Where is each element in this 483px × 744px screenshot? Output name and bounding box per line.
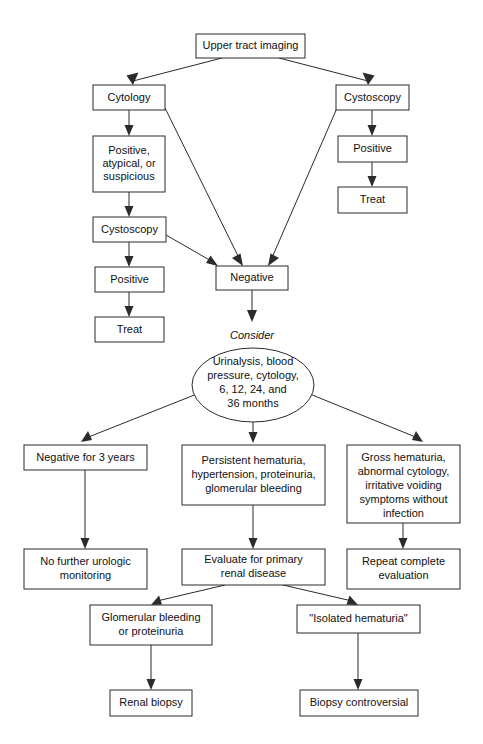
edge-followup-to-gross-hematuria (300, 390, 418, 438)
edge-cystoscopy-left-to-negative (166, 235, 213, 262)
node-no-further-monitoring[interactable]: No further urologic monitoring (24, 549, 147, 589)
node-cystoscopy-left[interactable]: Cystoscopy (93, 217, 166, 242)
arrowhead-isolated-to-biopsy-controversial (354, 679, 363, 690)
arrowhead-followup-to-gross-hematuria (412, 431, 423, 442)
arrowhead-positive-atypical-to-cystoscopy-left (125, 206, 134, 217)
node-treat-right[interactable]: Treat (338, 187, 407, 213)
edge-cytology-to-negative (165, 108, 240, 260)
arrowhead-cytology-to-positive-atypical (125, 125, 134, 136)
node-label-renal-biopsy: Renal biopsy (119, 696, 183, 708)
edge-followup-to-negative-3-years (86, 390, 207, 438)
node-label-gross-hematuria-line1: Gross hematuria, (361, 451, 445, 463)
node-label-evaluate-renal-line1: Evaluate for primary (204, 553, 303, 565)
arrowhead-followup-to-negative-3-years (81, 431, 92, 442)
node-label-cytology: Cytology (108, 91, 151, 103)
arrowhead-evaluate-to-glomerular (151, 596, 162, 606)
node-label-isolated-hematuria: "Isolated hematuria" (309, 612, 407, 624)
flowchart-canvas: Upper tract imaging Cytology Positive, a… (0, 0, 483, 744)
flowchart-diagram: Upper tract imaging Cytology Positive, a… (0, 0, 483, 744)
arrowhead-cystoscopy-right-to-negative (268, 254, 279, 267)
node-label-followup-line4: 36 months (227, 397, 279, 409)
node-label-evaluate-renal-line2: renal disease (221, 567, 286, 579)
arrowhead-cystoscopy-right-to-positive-right (368, 125, 377, 136)
node-label-glomerular-bleeding-line1: Glomerular bleeding (101, 611, 200, 623)
node-label-persistent-hematuria-line3: glomerular bleeding (205, 482, 302, 494)
node-biopsy-controversial[interactable]: Biopsy controversial (300, 690, 418, 716)
node-label-treat-right: Treat (360, 193, 385, 205)
arrowhead-cystoscopy-left-to-positive-left (125, 256, 134, 267)
node-label-glomerular-bleeding-line2: or proteinuria (119, 625, 185, 637)
node-positive-right[interactable]: Positive (338, 136, 407, 162)
node-label-followup-line2: pressure, cytology, (207, 369, 299, 381)
node-upper-tract-imaging[interactable]: Upper tract imaging (196, 34, 305, 58)
arrowhead-gross-to-repeat (399, 538, 408, 549)
node-negative[interactable]: Negative (216, 266, 288, 290)
node-label-treat-left: Treat (117, 323, 142, 335)
node-label-gross-hematuria-line4: symptoms without (359, 493, 447, 505)
node-renal-biopsy[interactable]: Renal biopsy (110, 690, 192, 716)
node-cytology[interactable]: Cytology (93, 85, 165, 110)
edge-imaging-to-cytology (133, 58, 222, 81)
node-treat-left[interactable]: Treat (95, 317, 164, 342)
node-label-cystoscopy-left: Cystoscopy (101, 223, 158, 235)
node-label-positive-right: Positive (353, 142, 392, 154)
node-label-no-further-monitoring-line2: monitoring (60, 569, 111, 581)
arrowhead-positive-left-to-treat-left (125, 306, 134, 317)
node-label-biopsy-controversial: Biopsy controversial (310, 696, 408, 708)
arrowhead-followup-to-persistent-hematuria (249, 432, 258, 443)
node-repeat-evaluation[interactable]: Repeat complete evaluation (347, 549, 460, 589)
node-label-followup-line3: 6, 12, 24, and (219, 383, 286, 395)
arrowhead-glomerular-to-renal-biopsy (147, 679, 156, 690)
arrowhead-imaging-to-cystoscopy-right (363, 73, 375, 86)
arrowhead-imaging-to-cytology (127, 73, 139, 86)
node-positive-atypical-suspicious[interactable]: Positive, atypical, or suspicious (93, 136, 165, 192)
node-label-followup-line1: Urinalysis, blood (213, 355, 294, 367)
edge-evaluate-to-isolated (283, 585, 352, 601)
node-label-persistent-hematuria-line2: hypertension, proteinuria, (191, 468, 315, 480)
node-label-gross-hematuria-line3: irritative voiding (365, 479, 441, 491)
arrowhead-negative-to-followup (247, 310, 257, 322)
edge-imaging-to-cystoscopy-right (279, 58, 368, 81)
node-label-positive-atypical-suspicious-line3: suspicious (103, 170, 155, 182)
arrowhead-positive-right-to-treat-right (368, 176, 377, 187)
node-label-negative: Negative (230, 271, 273, 283)
arrowhead-cystoscopy-left-to-negative (206, 256, 218, 267)
node-negative-3-years[interactable]: Negative for 3 years (24, 445, 147, 470)
edge-cystoscopy-right-to-negative (271, 108, 337, 260)
edge-evaluate-to-glomerular (157, 585, 225, 601)
node-label-negative-3-years: Negative for 3 years (36, 451, 135, 463)
node-label-repeat-evaluation-line2: evaluation (378, 569, 428, 581)
arrowhead-cytology-to-negative (232, 254, 243, 267)
arrowhead-negative-3-years-to-no-further (81, 538, 90, 549)
node-glomerular-bleeding[interactable]: Glomerular bleeding or proteinuria (90, 605, 212, 645)
node-label-cystoscopy-right: Cystoscopy (344, 91, 401, 103)
node-label-gross-hematuria-line2: abnormal cytology, (358, 465, 450, 477)
arrowhead-persistent-to-evaluate (249, 538, 258, 549)
node-label-repeat-evaluation-line1: Repeat complete (362, 555, 445, 567)
node-label-gross-hematuria-line5: infection (383, 507, 424, 519)
arrowhead-evaluate-to-isolated (347, 596, 359, 606)
node-positive-left[interactable]: Positive (95, 267, 164, 292)
node-label-positive-atypical-suspicious-line1: Positive, (108, 144, 150, 156)
node-label-persistent-hematuria-line1: Persistent hematuria, (202, 454, 306, 466)
node-label-upper-tract-imaging: Upper tract imaging (203, 39, 299, 51)
node-followup-oval[interactable]: Urinalysis, blood pressure, cytology, 6,… (192, 348, 314, 422)
node-label-positive-atypical-suspicious-line2: atypical, or (102, 157, 156, 169)
node-label-no-further-monitoring-line1: No further urologic (40, 555, 131, 567)
node-evaluate-renal[interactable]: Evaluate for primary renal disease (182, 549, 325, 585)
edge-label-consider: Consider (230, 329, 275, 341)
node-gross-hematuria[interactable]: Gross hematuria, abnormal cytology, irri… (347, 445, 460, 523)
node-label-positive-left: Positive (110, 273, 149, 285)
node-isolated-hematuria[interactable]: "Isolated hematuria" (297, 605, 420, 633)
node-layer: Upper tract imaging Cytology Positive, a… (24, 34, 460, 716)
node-cystoscopy-right[interactable]: Cystoscopy (336, 85, 409, 110)
node-persistent-hematuria[interactable]: Persistent hematuria, hypertension, prot… (182, 445, 325, 505)
